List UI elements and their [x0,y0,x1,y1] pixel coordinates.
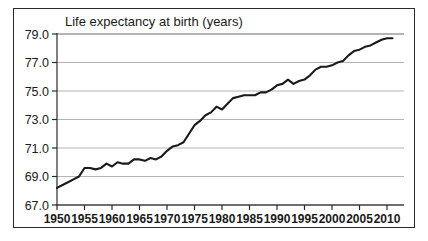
x-tick-label: 2000 [319,212,346,226]
x-tick-label: 1985 [236,212,263,226]
y-tick-label: 79.0 [25,28,49,42]
x-tick-label: 1960 [99,212,126,226]
y-tick-label: 71.0 [25,142,49,156]
y-tick-label: 77.0 [25,56,49,70]
x-tick-label: 1950 [44,212,71,226]
x-tick-label: 1955 [71,212,98,226]
y-tick-label: 69.0 [25,170,49,184]
y-tick-label: 67.0 [25,199,49,213]
x-tick-label: 2010 [374,212,401,226]
chart-frame: 67.069.071.073.075.077.079.0195019551960… [13,8,415,228]
x-tick-label: 1980 [209,212,236,226]
x-tick-label: 1990 [264,212,291,226]
y-tick-label: 73.0 [25,113,49,127]
x-tick-label: 2005 [346,212,373,226]
x-tick-label: 1975 [181,212,208,226]
x-tick-label: 1995 [291,212,318,226]
chart-title: Life expectancy at birth (years) [65,14,243,29]
line-chart: 67.069.071.073.075.077.079.0195019551960… [14,9,413,226]
x-tick-label: 1965 [126,212,153,226]
y-tick-label: 75.0 [25,85,49,99]
chart-figure: 67.069.071.073.075.077.079.0195019551960… [0,0,428,241]
data-line-life-expectancy [57,38,393,188]
x-tick-label: 1970 [154,212,181,226]
